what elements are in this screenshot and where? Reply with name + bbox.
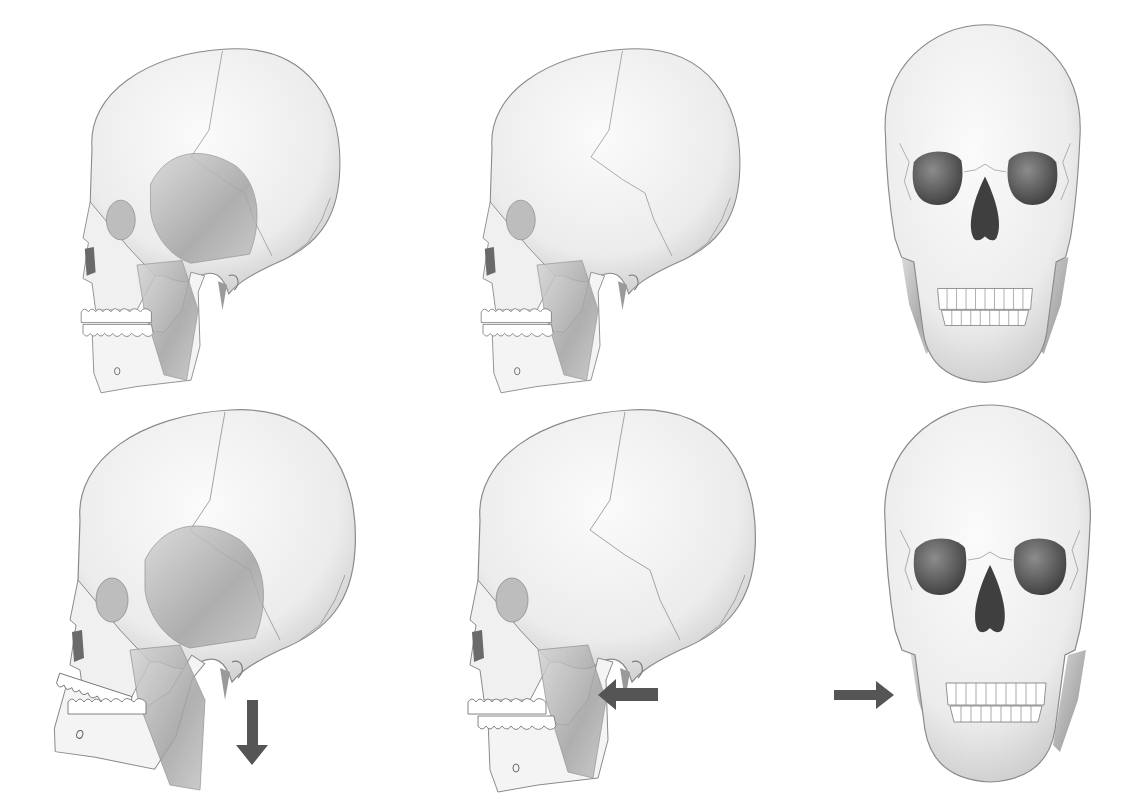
arrow-right-icon [834, 681, 894, 709]
skull-lateral-illustration [20, 400, 380, 796]
skull-lateral-closed-with-temporalis [20, 40, 380, 400]
skull-frontal-closed [840, 20, 1130, 390]
skull-lateral-closed-masseter [420, 40, 780, 400]
skull-frontal-illustration [840, 20, 1130, 390]
skull-frontal-lateral-shift [820, 400, 1139, 796]
arrow-down-icon [236, 700, 268, 765]
skull-lateral-illustration [420, 400, 780, 796]
skull-lateral-illustration [20, 40, 380, 400]
skull-frontal-illustration [820, 400, 1139, 796]
skull-lateral-jaw-retracted [420, 400, 780, 796]
skull-lateral-jaw-open [20, 400, 380, 796]
skull-lateral-illustration [420, 40, 780, 400]
